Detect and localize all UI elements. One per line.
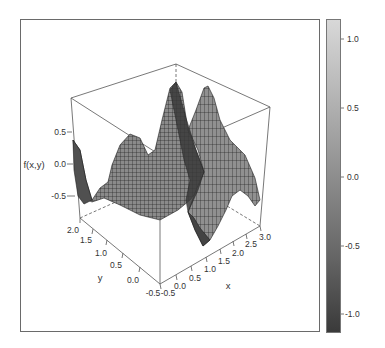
- x-tick: 0.5: [189, 273, 201, 283]
- x-tick: 3.0: [259, 232, 271, 242]
- y-tick: 2.0: [67, 225, 79, 235]
- x-tick: 1.5: [218, 256, 230, 266]
- surface-plot: 0.5 0.0 -0.5 f(x,y) 2.0 1.5 1.0 0.5 0.0 …: [0, 0, 385, 348]
- z-axis: 0.5 0.0 -0.5 f(x,y): [23, 127, 75, 201]
- y-tick: -0.5: [146, 288, 161, 298]
- z-tick: 0.5: [54, 127, 66, 137]
- colorbar-ticks: [341, 39, 344, 314]
- x-tick: 2.5: [245, 239, 257, 249]
- x-axis-label: x: [226, 280, 231, 291]
- surface-mesh: [73, 82, 260, 246]
- x-tick: 0.0: [174, 281, 186, 291]
- colorbar-tick: 0.5: [347, 103, 359, 113]
- x-tick: 2.0: [232, 248, 244, 258]
- colorbar-tick: -0.5: [345, 241, 360, 251]
- z-tick: 0.0: [54, 159, 66, 169]
- y-axis-label: y: [98, 272, 103, 283]
- z-tick: -0.5: [51, 191, 66, 201]
- x-tick: 1.0: [204, 264, 216, 274]
- y-tick: 1.0: [95, 248, 107, 258]
- colorbar-tick: 1.0: [347, 34, 359, 44]
- z-axis-label: f(x,y): [23, 159, 44, 170]
- y-tick: 0.5: [110, 260, 122, 270]
- y-tick: 1.5: [80, 235, 92, 245]
- colorbar-tick: 0.0: [347, 172, 359, 182]
- colorbar-tick: -1.0: [345, 309, 360, 319]
- y-tick: 0.0: [127, 275, 139, 285]
